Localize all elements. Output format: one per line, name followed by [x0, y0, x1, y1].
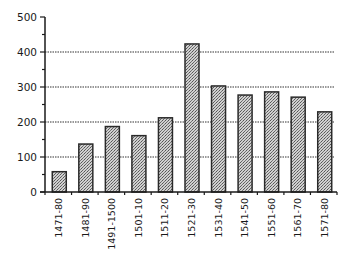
bar-1571-80 — [318, 112, 332, 192]
y-tick-label: 100 — [17, 151, 37, 163]
x-axis-ticks: 1471-801481-901491-15001501-101511-20152… — [45, 192, 337, 250]
y-axis-ticks: 0100200300400500 — [17, 11, 45, 198]
x-tick-label: 1501-10 — [133, 198, 144, 238]
bars — [52, 44, 331, 192]
x-tick-label: 1541-50 — [239, 198, 250, 238]
bar-1521-30 — [185, 44, 199, 192]
bar-1531-40 — [212, 86, 226, 192]
y-tick-label: 500 — [17, 11, 37, 23]
bar-1551-60 — [265, 92, 279, 192]
bar-1491-1500 — [105, 127, 119, 192]
x-tick-label: 1571-80 — [319, 198, 330, 238]
bar-1481-90 — [79, 144, 93, 192]
x-tick-label: 1491-1500 — [106, 198, 117, 250]
x-tick-label: 1511-20 — [159, 198, 170, 238]
bar-1471-80 — [52, 172, 66, 192]
bar-chart: 0100200300400500 1471-801481-901491-1500… — [0, 0, 351, 257]
y-tick-label: 200 — [17, 116, 37, 128]
bar-1541-50 — [238, 95, 252, 192]
x-tick-label: 1481-90 — [80, 198, 91, 238]
x-tick-label: 1561-70 — [292, 198, 303, 238]
bar-1561-70 — [291, 97, 305, 192]
bar-1511-20 — [158, 118, 172, 192]
y-tick-label: 0 — [30, 186, 37, 198]
bar-1501-10 — [132, 136, 146, 192]
x-tick-label: 1551-60 — [266, 198, 277, 238]
y-tick-label: 300 — [17, 81, 37, 93]
x-tick-label: 1471-80 — [53, 198, 64, 238]
y-tick-label: 400 — [17, 46, 37, 58]
x-tick-label: 1521-30 — [186, 198, 197, 238]
x-tick-label: 1531-40 — [213, 198, 224, 238]
